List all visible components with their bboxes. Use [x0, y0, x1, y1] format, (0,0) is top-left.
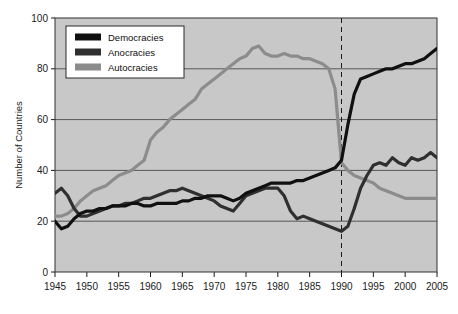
legend-swatch-democracies: [75, 34, 101, 41]
x-tick-label: 1955: [108, 281, 131, 292]
legend-swatch-autocracies: [75, 64, 101, 71]
chart-svg: 020406080100 194519501955196019651970197…: [0, 0, 458, 314]
x-axis-ticks: 1945195019551960196519701975198019851990…: [44, 272, 449, 292]
x-tick-label: 2000: [394, 281, 417, 292]
x-tick-label: 1945: [44, 281, 67, 292]
x-tick-label: 1995: [362, 281, 385, 292]
x-tick-label: 1965: [171, 281, 194, 292]
x-tick-label: 1950: [76, 281, 99, 292]
y-tick-label: 40: [37, 165, 49, 176]
legend-swatch-anocracies: [75, 49, 101, 56]
y-tick-label: 0: [42, 267, 48, 278]
x-tick-label: 1960: [139, 281, 162, 292]
y-tick-label: 20: [37, 216, 49, 227]
x-tick-label: 1985: [299, 281, 322, 292]
x-tick-label: 1970: [203, 281, 226, 292]
x-tick-label: 1990: [330, 281, 353, 292]
chart-figure: 020406080100 194519501955196019651970197…: [0, 0, 458, 314]
legend-label-autocracies: Autocracies: [108, 62, 158, 73]
y-tick-label: 100: [31, 13, 48, 24]
chart-legend: DemocraciesAnocraciesAutocracies: [66, 26, 184, 78]
x-tick-label: 2005: [426, 281, 449, 292]
legend-label-democracies: Democracies: [108, 32, 164, 43]
y-tick-label: 80: [37, 63, 49, 74]
y-tick-label: 60: [37, 114, 49, 125]
y-axis-label: Number of Countries: [13, 101, 24, 189]
x-tick-label: 1975: [235, 281, 258, 292]
legend-label-anocracies: Anocracies: [108, 47, 155, 58]
y-axis-ticks: 020406080100: [31, 13, 55, 278]
x-tick-label: 1980: [267, 281, 290, 292]
